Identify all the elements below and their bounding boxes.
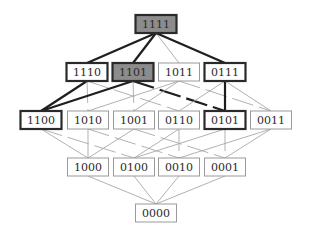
node-label: 0000 — [142, 207, 170, 220]
node-0000: 0000 — [136, 204, 177, 222]
edge-0110-0100 — [134, 129, 179, 158]
edge-1001-1000 — [88, 129, 134, 158]
node-1000: 1000 — [68, 158, 109, 176]
node-label: 1111 — [142, 18, 170, 31]
edge-1000-0000 — [88, 176, 156, 204]
edge-1111-0111 — [156, 33, 225, 63]
node-1100: 1100 — [21, 111, 62, 129]
edge-0111-0110 — [179, 81, 225, 111]
node-1110: 1110 — [67, 63, 108, 81]
edge-1101-0101 — [133, 81, 225, 111]
node-label: 1011 — [165, 66, 193, 79]
edge-0111-0011 — [225, 81, 271, 111]
node-label: 1010 — [74, 114, 102, 127]
edge-0011-0001 — [225, 129, 271, 158]
nodes-layer: 1111111011011011011111001010100101100101… — [21, 15, 292, 222]
edge-1100-1000 — [41, 129, 88, 158]
edge-1110-1100 — [41, 81, 87, 111]
node-label: 1001 — [120, 114, 148, 127]
node-1111: 1111 — [136, 15, 177, 33]
node-0010: 0010 — [159, 158, 200, 176]
node-0111: 0111 — [205, 63, 246, 81]
lattice-diagram: 1111111011011011011111001010100101100101… — [0, 0, 309, 240]
node-label: 1101 — [119, 66, 147, 79]
node-0100: 0100 — [114, 158, 155, 176]
node-label: 0111 — [211, 66, 239, 79]
node-label: 0101 — [211, 114, 239, 127]
node-1010: 1010 — [68, 111, 109, 129]
node-0011: 0011 — [251, 111, 292, 129]
node-1101: 1101 — [113, 63, 154, 81]
node-label: 0001 — [211, 161, 239, 174]
edge-1010-0010 — [88, 129, 179, 158]
edge-1100-0100 — [41, 129, 134, 158]
node-label: 0110 — [165, 114, 193, 127]
edge-1011-1001 — [134, 81, 179, 111]
node-label: 1000 — [74, 161, 102, 174]
node-1001: 1001 — [114, 111, 155, 129]
node-0101: 0101 — [205, 111, 246, 129]
node-label: 0010 — [165, 161, 193, 174]
node-label: 1100 — [27, 114, 55, 127]
node-label: 1110 — [73, 66, 101, 79]
node-0110: 0110 — [159, 111, 200, 129]
node-label: 0011 — [257, 114, 285, 127]
edge-0001-0000 — [156, 176, 225, 204]
node-1011: 1011 — [159, 63, 200, 81]
node-label: 0100 — [120, 161, 148, 174]
node-0001: 0001 — [205, 158, 246, 176]
